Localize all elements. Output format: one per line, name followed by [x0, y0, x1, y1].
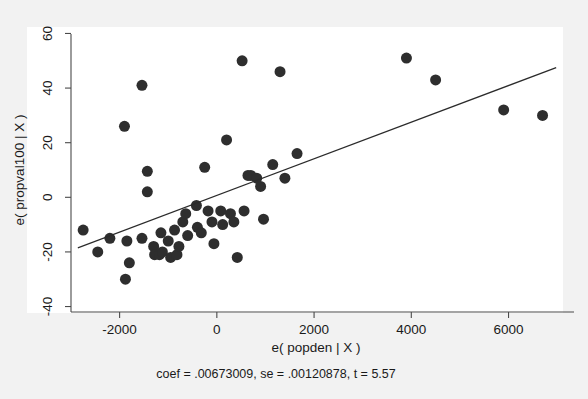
x-tick-labels: -20000200040006000 [102, 322, 523, 337]
data-point [255, 181, 266, 192]
scatter-plot: -20000200040006000 -40-200204060 e( popd… [0, 0, 588, 399]
x-axis-title: e( popden | X ) [271, 340, 360, 355]
data-point [258, 214, 269, 225]
regression-caption: coef = .00673009, se = .00120878, t = 5.… [156, 367, 395, 381]
data-point [163, 236, 174, 247]
data-points-group [78, 53, 548, 285]
data-point [78, 225, 89, 236]
x-tick-label: -2000 [102, 322, 137, 337]
data-point [221, 134, 232, 145]
data-point [203, 205, 214, 216]
x-tick-label: 6000 [494, 322, 524, 337]
y-axis-title: e( propval100 | X ) [12, 115, 27, 226]
y-tick-label: -40 [40, 297, 55, 317]
y-tick-labels: -40-200204060 [40, 26, 55, 316]
x-tick-label: 2000 [299, 322, 329, 337]
data-point [92, 246, 103, 257]
data-point [173, 241, 184, 252]
data-point [121, 236, 132, 247]
regression-line [78, 68, 556, 248]
x-tick-label: 4000 [396, 322, 426, 337]
data-point [430, 74, 441, 85]
data-point [169, 225, 180, 236]
data-point [196, 227, 207, 238]
data-point [124, 257, 135, 268]
data-point [199, 162, 210, 173]
data-point [142, 186, 153, 197]
data-point [237, 55, 248, 66]
data-point [182, 230, 193, 241]
x-tick-label: 0 [213, 322, 221, 337]
data-point [267, 159, 278, 170]
data-point [180, 208, 191, 219]
data-point [537, 110, 548, 121]
fit-line [78, 68, 556, 248]
y-tick-label: 20 [40, 135, 55, 150]
data-point [401, 53, 412, 64]
data-point [275, 66, 286, 77]
data-point [232, 252, 243, 263]
data-point [228, 216, 239, 227]
data-point [120, 274, 131, 285]
y-tick-label: 40 [40, 81, 55, 96]
data-point [292, 148, 303, 159]
figure-root: -20000200040006000 -40-200204060 e( popd… [0, 0, 588, 399]
y-tick-label: -20 [40, 242, 55, 262]
data-point [279, 173, 290, 184]
data-point [119, 121, 130, 132]
data-point [498, 104, 509, 115]
data-point [136, 233, 147, 244]
data-point [215, 205, 226, 216]
data-point [217, 219, 228, 230]
data-point [239, 205, 250, 216]
data-point [155, 227, 166, 238]
data-point [136, 80, 147, 91]
y-tick-label: 60 [40, 26, 55, 41]
data-point [142, 166, 153, 177]
data-point [208, 238, 219, 249]
data-point [206, 216, 217, 227]
y-tick-label: 0 [40, 194, 55, 202]
